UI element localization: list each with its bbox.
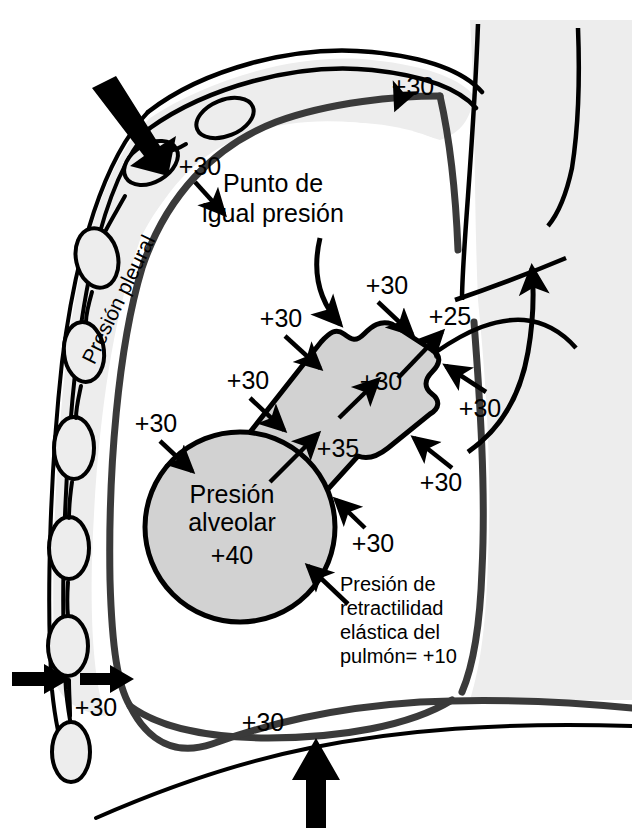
pressure-value-right-lower-30: +30 xyxy=(420,468,462,496)
pressure-value-airway-top-right: +30 xyxy=(366,271,408,299)
pressure-value-mouthward-25: +25 xyxy=(429,302,471,330)
pressure-value-bronchus-inner-35: +35 xyxy=(317,434,359,462)
pressure-value-below-bronchus-30: +30 xyxy=(352,529,394,557)
rib-7 xyxy=(48,616,88,676)
pressure-value-airway-lower-left: +30 xyxy=(227,366,269,394)
pressure-diagram: Punto de igual presión Presión pleural P… xyxy=(0,0,632,839)
alveolar-pressure-value: +40 xyxy=(211,541,253,569)
diaphragm xyxy=(96,700,632,818)
pressure-value-right-upper-30: +30 xyxy=(459,394,501,422)
pressure-value-bronchus-inner-30: +30 xyxy=(360,367,402,395)
pressure-value-chestwall-left-30: +30 xyxy=(75,693,117,721)
alveolar-pressure-line2: alveolar xyxy=(188,508,276,536)
rib-6 xyxy=(49,517,89,579)
intercostal-7 xyxy=(69,680,70,716)
intercostal-6 xyxy=(67,582,68,616)
pressure-value-diaphragm-30: +30 xyxy=(242,708,284,736)
equal-pressure-label-line2: igual presión xyxy=(202,199,344,227)
pressure-value-alveolus-left: +30 xyxy=(135,409,177,437)
mediastinum-region xyxy=(470,20,632,700)
equal-pressure-label-line1: Punto de xyxy=(223,169,323,197)
elastic-recoil-line3: elástica del xyxy=(340,621,440,643)
diaphragm-line-lower xyxy=(96,725,632,818)
alveolar-pressure-line1: Presión xyxy=(190,480,275,508)
elastic-recoil-line1: Presión de xyxy=(340,573,436,595)
pressure-value-upper-left-pleural: +30 xyxy=(179,152,221,180)
elastic-recoil-line2: retractilidad xyxy=(340,597,443,619)
pressure-value-airway-mid-left: +30 xyxy=(260,304,302,332)
rib-5 xyxy=(54,417,94,479)
rib-8 xyxy=(52,722,90,782)
pressure-value-apex-pleural: +30 xyxy=(392,72,434,100)
elastic-recoil-line4: pulmón= +10 xyxy=(340,645,457,667)
